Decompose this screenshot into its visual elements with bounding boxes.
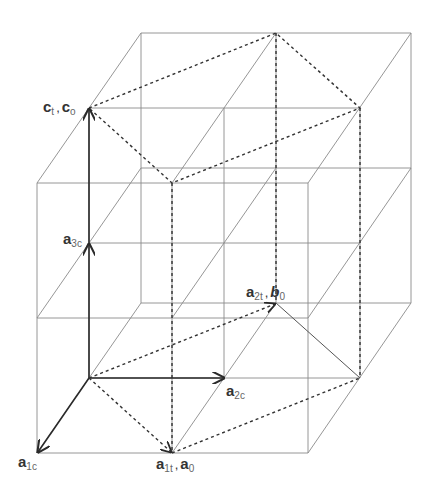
vector-a1c [38, 378, 89, 452]
label-a2t-b0: a2t,b0 [246, 283, 285, 302]
label-a1c: a1c [18, 453, 37, 472]
vector-a1t [89, 378, 171, 452]
thin-solid-edge [276, 303, 360, 378]
label-a1t-a0: a1t,a0 [156, 455, 194, 474]
label-ct-co: ct,co [43, 98, 76, 117]
cubic-grid [37, 33, 411, 453]
label-a3c: a3c [63, 230, 82, 249]
label-a2c: a2c [226, 382, 245, 401]
vector-a2t [89, 304, 275, 378]
